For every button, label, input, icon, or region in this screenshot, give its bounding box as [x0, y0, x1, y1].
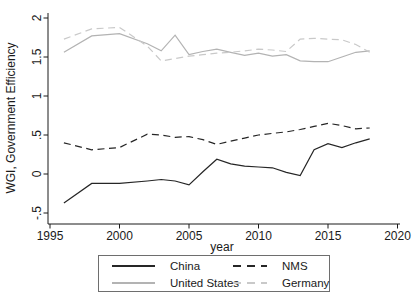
y-tick-label: .5 [30, 130, 44, 140]
y-tick-label: 1.5 [30, 48, 44, 65]
series-line-germany [64, 27, 370, 61]
legend-swatch-united-states-solid-line [112, 282, 155, 284]
y-tick-label: 0 [30, 170, 44, 177]
y-axis-ticks: -.50.511.52 [30, 14, 48, 220]
y-tick-label: 1 [30, 92, 44, 99]
y-tick-label: -.5 [30, 206, 44, 220]
legend: China NMS United States Germany [98, 255, 330, 292]
y-tick-label: 2 [30, 14, 44, 21]
legend-label-united-states: United States [170, 275, 239, 291]
x-tick-label: 1995 [37, 229, 64, 243]
legend-label-nms: NMS [282, 258, 308, 274]
x-tick-label: 2010 [245, 229, 272, 243]
legend-swatch-nms-dashed-line [233, 265, 267, 267]
legend-swatch-germany-dashed-line [233, 282, 267, 284]
x-tick-label: 2020 [384, 229, 411, 243]
x-tick-label: 2015 [315, 229, 342, 243]
legend-item-united-states: United States [112, 275, 239, 291]
legend-item-nms: NMS [233, 258, 308, 274]
legend-swatch-china-solid-line [112, 265, 155, 267]
legend-label-china: China [170, 258, 200, 274]
legend-item-germany: Germany [233, 275, 329, 291]
wgi-government-efficiency-chart: -.50.511.52 199520002005201020152020 yea… [0, 0, 413, 303]
y-axis-title: WGI, Government Efficiency [4, 42, 18, 193]
x-tick-label: 2005 [176, 229, 203, 243]
legend-label-germany: Germany [282, 275, 329, 291]
x-axis-title: year [210, 240, 233, 254]
data-series [64, 27, 370, 203]
legend-item-china: China [112, 258, 200, 274]
series-line-united-states [64, 34, 370, 62]
x-tick-label: 2000 [106, 229, 133, 243]
